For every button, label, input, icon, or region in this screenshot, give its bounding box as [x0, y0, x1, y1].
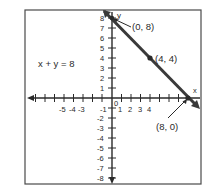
svg-text:-4: -4 [97, 134, 104, 143]
svg-text:-3: -3 [78, 105, 85, 114]
label-point-4-4: (4, 4) [155, 53, 177, 64]
svg-text:1: 1 [100, 84, 104, 93]
svg-text:-7: -7 [97, 164, 104, 173]
svg-text:-2: -2 [97, 114, 104, 123]
svg-text:4: 4 [100, 54, 104, 63]
svg-text:4: 4 [147, 105, 151, 114]
label-point-0-8: (0, 8) [132, 21, 154, 32]
y-axis-label: y [117, 11, 121, 20]
svg-text:7: 7 [100, 24, 104, 33]
svg-text:5: 5 [100, 44, 104, 53]
svg-text:8: 8 [100, 14, 104, 23]
svg-text:3: 3 [138, 105, 142, 114]
x-tick-labels: -5 -4 -3 -1 1 2 3 4 [59, 105, 151, 114]
svg-text:3: 3 [100, 64, 104, 73]
svg-text:-5: -5 [97, 144, 104, 153]
x-axis-label: x [193, 86, 197, 95]
svg-text:-4: -4 [69, 105, 76, 114]
svg-text:-5: -5 [59, 105, 66, 114]
label-point-8-0: (8, 0) [156, 121, 178, 132]
svg-text:-8: -8 [97, 174, 104, 183]
svg-text:1: 1 [118, 105, 122, 114]
svg-text:-3: -3 [97, 124, 104, 133]
equation-label: x + y = 8 [38, 58, 74, 69]
svg-text:6: 6 [100, 34, 104, 43]
svg-text:2: 2 [128, 105, 132, 114]
svg-text:2: 2 [100, 74, 104, 83]
svg-text:-1: -1 [100, 105, 107, 114]
graph: (0, 8) (4, 4) (8, 0) x + y = 8 y x 0 -5 … [0, 0, 212, 193]
point-4-4 [147, 55, 152, 60]
svg-text:-6: -6 [97, 154, 104, 163]
point-0-8 [110, 16, 114, 20]
